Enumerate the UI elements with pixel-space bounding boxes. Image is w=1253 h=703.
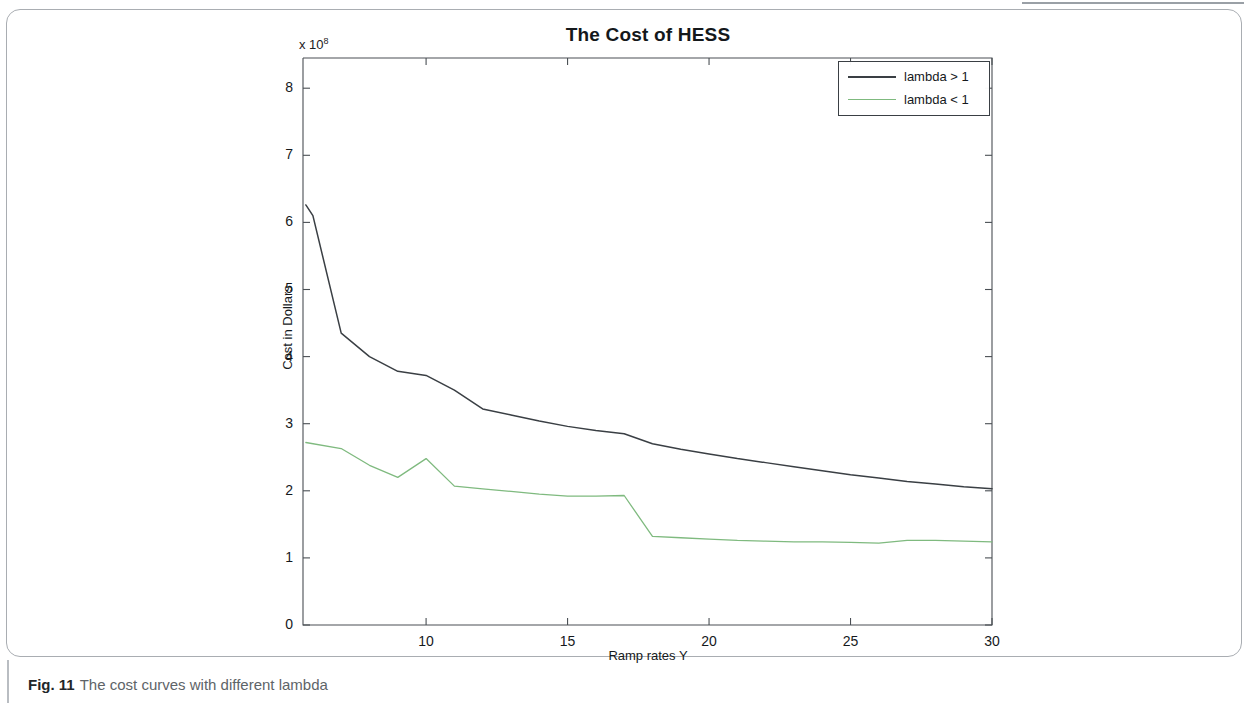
y-tick-label: 1: [259, 549, 293, 565]
legend-swatch-1: [848, 99, 896, 100]
y-tick-label: 3: [259, 415, 293, 431]
series-line-1: [306, 442, 992, 543]
figure-chart: The Cost of HESS x 108 Cost in Dollars R…: [0, 0, 1253, 660]
series-line-0: [306, 205, 992, 489]
x-tick-label: 20: [689, 633, 729, 649]
x-tick-label: 30: [972, 633, 1012, 649]
y-tick-label: 2: [259, 482, 293, 498]
y-exponent-value: 8: [324, 36, 329, 46]
caption-side-rule: [7, 660, 9, 703]
y-tick-label: 7: [259, 146, 293, 162]
legend-label-1: lambda < 1: [904, 92, 969, 107]
y-axis-label: Cost in Dollars: [280, 258, 295, 398]
legend-label-0: lambda > 1: [904, 69, 969, 84]
chart-title: The Cost of HESS: [303, 24, 993, 46]
figure-caption: Fig. 11The cost curves with different la…: [28, 676, 328, 693]
legend-item-0: lambda > 1: [839, 66, 989, 88]
x-tick-label: 15: [548, 633, 588, 649]
y-tick-label: 6: [259, 213, 293, 229]
y-tick-label: 8: [259, 79, 293, 95]
x-axis-label: Ramp rates Y: [303, 648, 993, 663]
x-tick-label: 25: [831, 633, 871, 649]
y-tick-label: 4: [259, 348, 293, 364]
x-tick-label: 10: [406, 633, 446, 649]
y-axis-exponent: x 108: [299, 36, 329, 52]
y-tick-label: 5: [259, 280, 293, 296]
series-group: [306, 205, 992, 543]
figure-caption-label: Fig. 11: [28, 676, 75, 693]
figure-caption-text: The cost curves with different lambda: [80, 676, 328, 693]
legend-item-1: lambda < 1: [839, 89, 989, 111]
y-exponent-prefix: x 10: [299, 37, 324, 52]
plot-area: [0, 0, 1253, 660]
chart-legend: lambda > 1 lambda < 1: [838, 61, 990, 116]
y-tick-label: 0: [259, 616, 293, 632]
legend-swatch-0: [848, 76, 896, 78]
axes-group: [303, 58, 992, 625]
